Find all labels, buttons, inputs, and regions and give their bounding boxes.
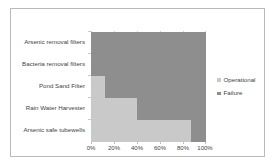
legend-label-failure: Failure: [224, 90, 243, 96]
legend-label-operational: Operational: [224, 77, 256, 83]
bar-segment-failure[interactable]: [191, 120, 206, 142]
bar-row[interactable]: [91, 120, 206, 142]
legend-item-failure[interactable]: Failure: [217, 90, 273, 96]
legend-swatch-failure: [217, 92, 221, 96]
bar-segment-failure[interactable]: [105, 76, 206, 98]
bar-row[interactable]: [91, 54, 206, 76]
plot-area: [91, 31, 206, 141]
bar-segment-operational[interactable]: [91, 120, 191, 142]
y-axis-label-2: Pond Sand Filter: [39, 83, 85, 89]
x-tick-label-100: 100%: [192, 145, 218, 151]
legend-swatch-operational: [217, 78, 221, 82]
bar-segment-operational[interactable]: [91, 76, 105, 98]
y-axis-label-1: Bacteria removal filters: [22, 61, 85, 67]
y-axis-label-0: Arsenic removal filters: [24, 39, 85, 45]
y-axis-label-3: Rain Water Harvester: [26, 105, 85, 111]
bar-segment-failure[interactable]: [137, 98, 206, 120]
chart-frame: Arsenic removal filters Bacteria removal…: [10, 8, 265, 157]
bar-row[interactable]: [91, 76, 206, 98]
chart-legend: Operational Failure: [217, 77, 273, 103]
bar-segment-failure[interactable]: [91, 54, 206, 76]
legend-item-operational[interactable]: Operational: [217, 77, 273, 83]
bar-row[interactable]: [91, 98, 206, 120]
bar-segment-operational[interactable]: [91, 98, 137, 120]
y-axis-label-4: Arsenic safe tubewells: [23, 127, 85, 133]
bar-row[interactable]: [91, 32, 206, 54]
bar-segment-failure[interactable]: [91, 32, 206, 54]
y-axis-category-labels: Arsenic removal filters Bacteria removal…: [11, 31, 87, 141]
